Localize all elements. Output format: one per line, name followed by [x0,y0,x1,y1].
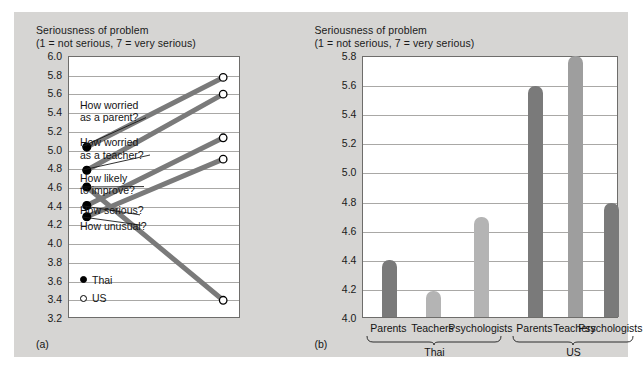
panel-b-tag: (b) [314,338,327,350]
y-axis-tick-label: 4.4 [312,254,356,266]
bar [604,203,619,317]
annotation-text: How worried [80,136,144,149]
open-circle-icon [80,295,87,302]
legend-label: US [92,292,107,304]
group-brace [512,336,634,346]
y-axis-tick-label: 4.8 [18,162,62,174]
y-axis-tick-label: 4.0 [18,237,62,249]
annotation-text: How worried [80,99,138,112]
category-label: Parents [370,322,406,334]
series-annotation: How likelyto improve? [80,172,135,197]
panel-b-title-line1: Seriousness of problem [314,24,474,37]
panel-a-title: Seriousness of problem (1 = not serious,… [36,24,196,49]
y-axis-tick-label: 4.6 [312,225,356,237]
series-annotation: How worriedas a teacher? [80,136,144,161]
group-label: US [566,346,581,358]
us-data-point [219,74,227,82]
y-axis-tick-label: 5.4 [18,106,62,118]
bar [382,260,397,317]
legend-entry: US [80,292,107,304]
series-annotation: How unusual? [80,220,147,233]
panel-b: Seriousness of problem (1 = not serious,… [296,12,628,357]
annotation-text: as a teacher? [80,149,144,162]
y-axis-tick-label: 4.2 [18,218,62,230]
category-label: Parents [516,322,552,334]
y-axis-tick-label: 5.0 [18,144,62,156]
group-brace [366,336,502,346]
bar [528,86,543,317]
y-axis-tick-label: 5.2 [18,125,62,137]
y-axis-tick-label: 4.8 [312,196,356,208]
series-annotation: How serious? [80,204,144,217]
y-axis-tick-label: 3.6 [18,275,62,287]
y-axis-tick-label: 3.2 [18,312,62,324]
y-axis-tick-label: 5.8 [312,50,356,62]
panel-b-plot-area [362,56,618,318]
y-axis-tick-label: 4.6 [18,181,62,193]
panel-a-title-line2: (1 = not serious, 7 = very serious) [36,37,196,50]
group-label: Thai [424,346,444,358]
annotation-text: to improve? [80,184,135,197]
y-axis-tick-label: 6.0 [18,50,62,62]
legend-entry: Thai [80,274,112,286]
y-axis-tick-label: 3.8 [18,256,62,268]
bar [426,291,441,317]
annotation-text: as a parent? [80,111,138,124]
us-data-point [219,297,227,305]
y-axis-tick-label: 4.4 [18,200,62,212]
annotation-text: How unusual? [80,220,147,233]
us-data-point [219,155,227,163]
y-axis-tick-label: 5.0 [312,166,356,178]
panel-a: Seriousness of problem (1 = not serious,… [14,12,296,357]
y-axis-tick-label: 5.4 [312,108,356,120]
y-axis-tick-label: 5.6 [312,79,356,91]
panel-b-title: Seriousness of problem (1 = not serious,… [314,24,474,49]
bar [568,56,583,317]
filled-circle-icon [80,276,87,283]
bar [474,217,489,317]
y-axis-tick-label: 4.2 [312,283,356,295]
annotation-text: How likely [80,172,135,185]
panel-a-tag: (a) [36,338,49,350]
category-label: Psychologists [578,322,642,334]
y-axis-tick-label: 5.8 [18,69,62,81]
panel-b-title-line2: (1 = not serious, 7 = very serious) [314,37,474,50]
legend-label: Thai [92,274,112,286]
y-axis-tick-label: 5.2 [312,137,356,149]
figure-container: Seriousness of problem (1 = not serious,… [14,12,628,357]
annotation-text: How serious? [80,204,144,217]
series-annotation: How worriedas a parent? [80,99,138,124]
y-axis-tick-label: 4.0 [312,312,356,324]
us-data-point [219,134,227,142]
us-data-point [219,90,227,98]
panel-a-title-line1: Seriousness of problem [36,24,196,37]
y-axis-tick-label: 5.6 [18,87,62,99]
y-axis-tick-label: 3.4 [18,293,62,305]
category-label: Psychologists [448,322,512,334]
